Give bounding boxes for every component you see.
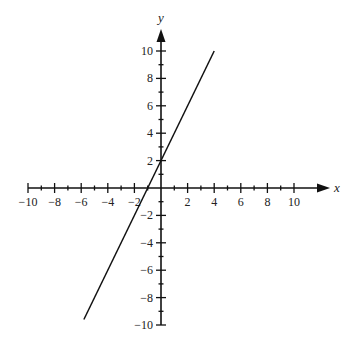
y-tick-label: 2 — [147, 154, 153, 168]
y-tick-label: −6 — [140, 263, 153, 277]
y-tick-label: 4 — [147, 126, 153, 140]
x-axis-arrow-icon — [317, 184, 330, 193]
x-tick-label: 6 — [238, 195, 244, 209]
x-tick-label: −10 — [19, 195, 38, 209]
y-tick-label: −2 — [140, 208, 153, 222]
axes — [28, 29, 330, 325]
x-tick-label: 8 — [264, 195, 270, 209]
y-tick-label: 6 — [147, 99, 153, 113]
x-tick-label: 2 — [185, 195, 191, 209]
x-tick-label: 10 — [288, 195, 300, 209]
y-tick-label: −8 — [140, 291, 153, 305]
x-tick-label: −6 — [75, 195, 88, 209]
y-tick-label: −10 — [134, 318, 153, 332]
x-tick-label: −8 — [48, 195, 61, 209]
plotted-lines — [84, 51, 214, 320]
x-tick-label: 4 — [211, 195, 217, 209]
y-axis-arrow-icon — [157, 29, 166, 42]
y-tick-label: 10 — [141, 44, 153, 58]
y-tick-label: 8 — [147, 71, 153, 85]
y-tick-label: −4 — [140, 236, 153, 250]
y-axis-label: y — [156, 10, 164, 25]
x-tick-label: −4 — [101, 195, 114, 209]
x-axis-label: x — [333, 180, 340, 195]
coordinate-plane: −10−8−6−4−2246810−10−8−6−4−2246810 x y — [0, 0, 341, 352]
line-series — [84, 51, 214, 320]
